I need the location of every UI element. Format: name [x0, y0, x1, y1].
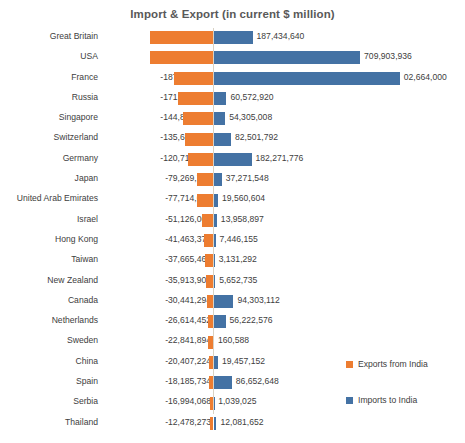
export-bar[interactable] — [207, 295, 213, 308]
category-label: Netherlands — [0, 315, 98, 325]
category-label: Spain — [0, 376, 98, 386]
category-label: Serbia — [0, 396, 98, 406]
import-value-label: 82,501,792 — [235, 132, 278, 142]
import-value-label: 12,081,652 — [220, 417, 263, 427]
import-bar[interactable] — [214, 51, 360, 64]
bar-row: Switzerland-135,689,40882,501,792 — [0, 129, 465, 149]
import-value-label: 19,560,604 — [222, 193, 265, 203]
bar-row: Hong Kong-41,463,3767,446,155 — [0, 231, 465, 251]
export-bar[interactable] — [208, 315, 213, 328]
category-label: USA — [0, 51, 98, 61]
bar-row: United Arab Emirates-77,714,08819,560,60… — [0, 190, 465, 210]
import-value-label: 160,588 — [218, 335, 249, 345]
import-value-label: 3,131,292 — [219, 254, 257, 264]
bar-row: Thailand-12,478,27312,081,652 — [0, 414, 465, 434]
import-value-label: 02,664,000 — [404, 72, 447, 82]
export-value-label: -16,994,068 — [100, 396, 211, 406]
import-bar[interactable] — [214, 356, 218, 369]
export-value-label: -37,665,464 — [100, 254, 211, 264]
export-bar[interactable] — [150, 31, 213, 44]
import-bar[interactable] — [214, 31, 253, 44]
export-bar[interactable] — [210, 397, 213, 410]
export-value-label: -20,407,224 — [100, 356, 211, 366]
import-value-label: 7,446,155 — [220, 234, 258, 244]
category-label: Sweden — [0, 335, 98, 345]
export-bar[interactable] — [204, 234, 213, 247]
export-value-label: -41,463,376 — [100, 234, 211, 244]
category-label: Russia — [0, 92, 98, 102]
import-bar[interactable] — [214, 72, 400, 85]
export-value-label: -51,126,008 — [100, 214, 211, 224]
export-bar[interactable] — [206, 275, 213, 288]
export-bar[interactable] — [185, 133, 213, 146]
import-bar[interactable] — [214, 214, 217, 227]
legend-swatch-exports-icon — [346, 361, 353, 368]
export-value-label: -35,913,900 — [100, 275, 211, 285]
export-value-label: -26,614,452 — [100, 315, 211, 325]
import-value-label: 709,903,936 — [364, 51, 412, 61]
export-value-label: -30,441,294 — [100, 295, 211, 305]
legend-item-exports[interactable]: Exports from India — [346, 359, 428, 369]
export-bar[interactable] — [150, 51, 213, 64]
import-bar[interactable] — [214, 417, 216, 430]
category-label: Switzerland — [0, 132, 98, 142]
export-bar[interactable] — [202, 214, 213, 227]
bar-row: Russia-171,032,96060,572,920 — [0, 89, 465, 109]
import-bar[interactable] — [214, 173, 222, 186]
export-value-label: -22,841,894 — [100, 335, 211, 345]
import-bar[interactable] — [214, 133, 231, 146]
plot-area: Great Britain-306,143,296187,434,640USA-… — [0, 28, 465, 414]
legend-label-imports: Imports to India — [358, 395, 417, 405]
export-bar[interactable] — [178, 92, 213, 105]
category-label: France — [0, 72, 98, 82]
import-bar[interactable] — [214, 112, 225, 125]
bar-row: Sweden-22,841,894160,588 — [0, 332, 465, 352]
bar-row: USA-304,189,024709,903,936 — [0, 48, 465, 68]
import-value-label: 56,222,576 — [230, 315, 273, 325]
export-bar[interactable] — [197, 194, 213, 207]
category-label: New Zealand — [0, 275, 98, 285]
legend-label-exports: Exports from India — [358, 359, 428, 369]
import-bar[interactable] — [214, 194, 218, 207]
bar-row: Japan-79,269,72837,271,548 — [0, 170, 465, 190]
export-bar[interactable] — [209, 376, 213, 389]
import-value-label: 86,652,648 — [236, 376, 279, 386]
import-bar[interactable] — [214, 275, 215, 288]
import-bar[interactable] — [214, 254, 215, 267]
export-bar[interactable] — [210, 417, 213, 430]
import-bar[interactable] — [214, 376, 232, 389]
export-bar[interactable] — [208, 336, 213, 349]
import-bar[interactable] — [214, 315, 226, 328]
import-value-label: 54,305,008 — [229, 112, 272, 122]
category-label: Israel — [0, 214, 98, 224]
chart-title: Import & Export (in current $ million) — [0, 8, 465, 20]
export-bar[interactable] — [205, 254, 213, 267]
category-label: United Arab Emirates — [0, 193, 98, 203]
import-value-label: 1,039,025 — [218, 396, 256, 406]
export-value-label: -18,185,734 — [100, 376, 211, 386]
import-value-label: 19,457,152 — [222, 356, 265, 366]
legend-item-imports[interactable]: Imports to India — [346, 395, 417, 405]
bar-row: Great Britain-306,143,296187,434,640 — [0, 28, 465, 48]
import-bar[interactable] — [214, 234, 216, 247]
export-bar[interactable] — [188, 153, 213, 166]
category-label: Thailand — [0, 417, 98, 427]
bar-row: Germany-120,712,784182,271,776 — [0, 150, 465, 170]
import-value-label: 13,958,897 — [221, 214, 264, 224]
import-bar[interactable] — [214, 92, 226, 105]
import-bar[interactable] — [214, 153, 252, 166]
export-bar[interactable] — [197, 173, 213, 186]
bar-row: New Zealand-35,913,9005,652,735 — [0, 272, 465, 292]
export-bar[interactable] — [183, 112, 213, 125]
category-label: Germany — [0, 153, 98, 163]
category-label: Canada — [0, 295, 98, 305]
category-label: Japan — [0, 173, 98, 183]
bar-row: Singapore-144,829,55254,305,008 — [0, 109, 465, 129]
import-value-label: 94,303,112 — [237, 295, 279, 305]
bar-row: France-187,133,74402,664,000 — [0, 69, 465, 89]
import-value-label: 37,271,548 — [226, 173, 269, 183]
export-bar[interactable] — [174, 72, 213, 85]
import-bar[interactable] — [214, 295, 233, 308]
export-bar[interactable] — [209, 356, 213, 369]
bar-row: Netherlands-26,614,45256,222,576 — [0, 312, 465, 332]
